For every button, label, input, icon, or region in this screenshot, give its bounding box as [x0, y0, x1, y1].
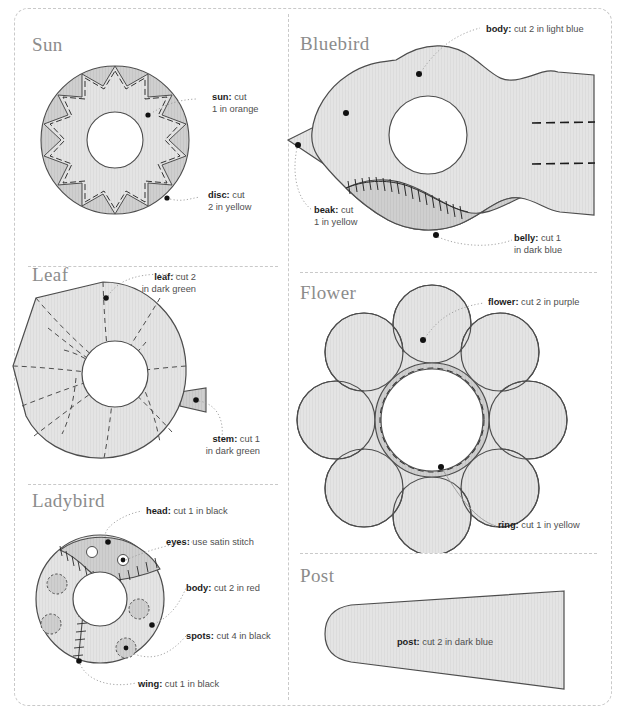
marker-dot-beak	[295, 142, 301, 148]
ladybird-eye-left	[87, 547, 98, 558]
label-beak-piece: beak: cut 1 in yellow	[314, 205, 357, 228]
section-bluebird: Bluebird	[288, 0, 627, 272]
marker-dot-disc	[164, 195, 169, 200]
section-post: Post post: cut 2 in dark blue	[288, 553, 627, 717]
label-body-piece: body: cut 2 in red	[186, 583, 260, 595]
leader-wing	[80, 664, 136, 685]
label-spots-piece: spots: cut 4 in black	[186, 631, 271, 643]
bluebird-diagram	[288, 0, 627, 272]
marker-dot-wing	[76, 658, 82, 664]
label-stem-piece: stem: cut 1 in dark green	[160, 434, 260, 457]
marker-dot-ring	[438, 464, 444, 470]
flower-diagram	[288, 272, 627, 553]
leader-disc	[170, 197, 200, 200]
marker-dot-sun	[145, 112, 150, 117]
label-head-piece: head: cut 1 in black	[146, 506, 228, 518]
label-ring-piece: ring: cut 1 in yellow	[498, 520, 580, 532]
post-diagram: post: cut 2 in dark blue	[288, 553, 627, 717]
section-sun: Sun	[0, 0, 288, 266]
marker-dot-leaf	[103, 295, 109, 301]
label-eyes-piece: eyes: use satin stitch	[166, 537, 254, 549]
sun-diagram	[0, 0, 288, 266]
leader-beak	[295, 148, 312, 210]
section-ladybird: Ladybird	[0, 484, 288, 717]
marker-dot-stem	[193, 397, 199, 403]
section-flower: Flower	[288, 272, 627, 553]
leader-belly	[438, 237, 512, 245]
marker-dot-eyes	[121, 558, 126, 563]
marker-dot-body	[149, 622, 155, 628]
label-leaf-piece: leaf: cut 2 in dark green	[96, 272, 196, 295]
section-leaf: Leaf	[0, 266, 288, 484]
post-inline-label: post: cut 2 in dark blue	[397, 637, 493, 647]
marker-dot-head	[105, 539, 111, 545]
label-disc-piece: disc: cut 2 in yellow	[208, 190, 251, 213]
marker-dot-head	[343, 110, 349, 116]
label-body-piece: body: cut 2 in light blue	[486, 24, 584, 36]
label-sun-piece: sun: cut 1 in orange	[212, 92, 259, 115]
label-flower-piece: flower: cut 2 in purple	[488, 297, 579, 309]
label-wing-piece: wing: cut 1 in black	[138, 679, 219, 691]
label-belly-piece: belly: cut 1 in dark blue	[514, 233, 562, 256]
